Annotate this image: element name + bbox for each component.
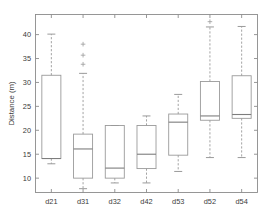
- y-tick-label: 15: [23, 150, 31, 159]
- x-tick-label: d53: [172, 197, 184, 206]
- y-axis-title-text: Distance (m): [7, 81, 16, 126]
- x-tick-label: d31: [77, 197, 89, 206]
- box-iqr: [137, 126, 156, 169]
- y-tick-label: 20: [23, 126, 31, 135]
- box-iqr: [42, 75, 61, 158]
- x-tick-label: d54: [235, 197, 247, 206]
- box-iqr: [200, 81, 219, 120]
- y-tick-label: 10: [23, 174, 31, 183]
- y-tick-label: 35: [23, 54, 31, 63]
- x-tick-label: d52: [204, 197, 216, 206]
- x-tick-label: d42: [140, 197, 152, 206]
- box-iqr: [74, 134, 93, 178]
- y-tick-label: 40: [23, 30, 31, 39]
- y-tick-label: 30: [23, 78, 31, 87]
- boxplot-figure: 10152025303540d21d31d32d42d53d52d54Dista…: [0, 0, 270, 223]
- x-tick-label: d32: [109, 197, 121, 206]
- x-tick-label: d21: [45, 197, 57, 206]
- boxplot-canvas: 10152025303540d21d31d32d42d53d52d54Dista…: [0, 0, 270, 223]
- box-iqr: [105, 126, 124, 179]
- box-iqr: [232, 76, 251, 119]
- axis-frame: [36, 15, 258, 193]
- y-tick-label: 25: [23, 102, 31, 111]
- box-iqr: [169, 114, 188, 155]
